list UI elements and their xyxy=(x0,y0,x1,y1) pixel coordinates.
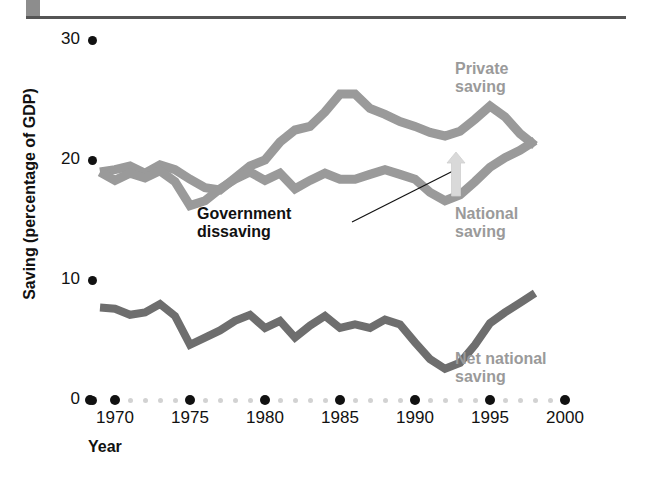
x-tick-dot xyxy=(110,395,120,405)
x-tick-dot xyxy=(560,395,570,405)
x-tick-dot xyxy=(260,395,270,405)
x-tick-dot xyxy=(410,395,420,405)
national-saving-label: National saving xyxy=(455,205,518,241)
x-minor-tick-dot xyxy=(353,398,358,403)
government-dissaving-label: Government dissaving xyxy=(197,205,291,241)
y-tick-label: 10 xyxy=(40,269,80,289)
y-tick-label: 30 xyxy=(40,29,80,49)
x-minor-tick-dot xyxy=(473,398,478,403)
x-minor-tick-dot xyxy=(503,398,508,403)
x-minor-tick-dot xyxy=(173,398,178,403)
x-minor-tick-dot xyxy=(143,398,148,403)
x-minor-tick-dot xyxy=(248,398,253,403)
x-minor-tick-dot xyxy=(548,398,553,403)
x-minor-tick-dot xyxy=(443,398,448,403)
y-tick-dot xyxy=(88,276,97,285)
x-tick-label: 1985 xyxy=(310,408,370,428)
x-tick-dot xyxy=(335,395,345,405)
net-national-saving-label: Net national saving xyxy=(455,350,547,386)
x-minor-tick-dot xyxy=(428,398,433,403)
y-tick-dot xyxy=(88,36,97,45)
x-minor-tick-dot xyxy=(458,398,463,403)
x-minor-tick-dot xyxy=(383,398,388,403)
x-tick-label: 2000 xyxy=(535,408,595,428)
chart-svg xyxy=(0,0,645,477)
x-minor-tick-dot xyxy=(233,398,238,403)
x-minor-tick-dot xyxy=(128,398,133,403)
x-minor-tick-dot xyxy=(308,398,313,403)
x-tick-dot xyxy=(485,395,495,405)
x-minor-tick-dot xyxy=(293,398,298,403)
x-minor-tick-dot xyxy=(203,398,208,403)
x-minor-tick-dot xyxy=(533,398,538,403)
chart-plot-area: 01020301970197519801985199019952000 xyxy=(0,0,645,477)
x-tick-dot xyxy=(185,395,195,405)
series-line-national-saving xyxy=(100,141,535,206)
x-minor-tick-dot xyxy=(323,398,328,403)
private-saving-label: Private saving xyxy=(455,60,508,96)
x-minor-tick-dot xyxy=(278,398,283,403)
x-minor-tick-dot xyxy=(398,398,403,403)
x-tick-label: 1975 xyxy=(160,408,220,428)
y-tick-label: 20 xyxy=(40,149,80,169)
y-tick-label: 0 xyxy=(40,389,80,409)
x-minor-tick-dot xyxy=(518,398,523,403)
x-tick-label: 1970 xyxy=(85,408,145,428)
y-tick-dot xyxy=(88,156,97,165)
x-tick-label: 1990 xyxy=(385,408,445,428)
x-tick-label: 1995 xyxy=(460,408,520,428)
x-tick-label: 1980 xyxy=(235,408,295,428)
x-minor-tick-dot xyxy=(158,398,163,403)
x-minor-tick-dot xyxy=(218,398,223,403)
x-minor-tick-dot xyxy=(368,398,373,403)
x-axis-origin-dot xyxy=(85,395,95,405)
